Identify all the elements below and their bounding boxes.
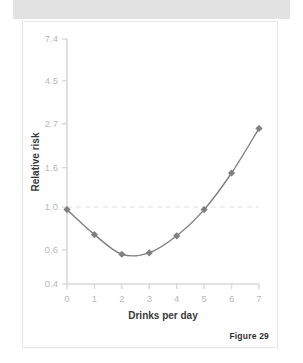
x-tick-label: 5 [201,293,206,304]
y-axis-ticks: 0.40.61.01.62.74.57.4 [45,33,67,289]
y-tick-label: 7.4 [45,33,58,44]
x-tick-label: 0 [64,293,69,304]
x-axis-title: Drinks per day [128,310,198,321]
x-tick-label: 2 [119,293,124,304]
chart-plot-area: 0.40.61.01.62.74.57.4 01234567 Drinks pe… [23,22,277,347]
x-tick-label: 1 [92,293,97,304]
y-tick-label: 0.4 [45,278,58,289]
figure-caption: Figure 29 [229,331,269,341]
y-tick-label: 4.5 [45,75,58,86]
x-tick-label: 3 [147,293,152,304]
relative-risk-line-chart: 0.40.61.01.62.74.57.4 01234567 Drinks pe… [23,22,277,347]
data-point-marker [255,125,262,132]
series-markers-relative-risk [63,125,262,258]
y-tick-label: 0.6 [45,244,58,255]
y-axis-title: Relative risk [30,132,41,191]
axis-lines [67,39,259,284]
figure-card: 0.40.61.01.62.74.57.4 01234567 Drinks pe… [22,21,278,348]
data-point-marker [118,251,125,258]
data-point-marker [146,249,153,256]
y-tick-label: 2.7 [45,118,58,129]
top-decorative-band [13,0,290,19]
x-tick-label: 4 [174,293,179,304]
x-tick-label: 6 [229,293,234,304]
x-axis-ticks: 01234567 [64,284,261,304]
y-tick-label: 1.6 [45,162,58,173]
y-tick-label: 1.0 [45,201,58,212]
x-tick-label: 7 [256,293,261,304]
